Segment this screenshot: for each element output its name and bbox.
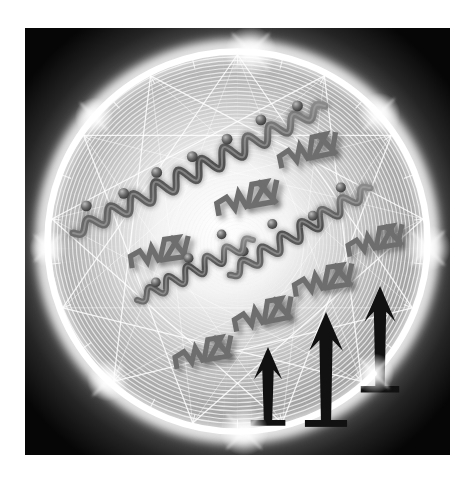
bead: [151, 277, 161, 287]
sparkle-top-left-core: [92, 114, 97, 119]
bead: [256, 114, 267, 125]
sparkle-top-core: [248, 49, 253, 54]
sparkle-bottom-left-core: [105, 378, 110, 383]
bead: [118, 188, 129, 199]
artwork-panel: [25, 28, 450, 455]
bead: [184, 253, 194, 263]
sparkle-left-core: [45, 246, 50, 251]
bead: [151, 167, 162, 178]
sparkle-bottom-right-core: [372, 371, 377, 376]
bead: [267, 219, 277, 229]
bead: [292, 100, 303, 111]
sparkle-bottom-core: [242, 429, 247, 434]
arrow-middle-base-bar: [305, 420, 347, 427]
sparkle-top-right-core: [376, 112, 381, 117]
bead: [308, 211, 318, 221]
bead: [81, 200, 92, 211]
bead: [222, 134, 233, 145]
bead: [336, 182, 346, 192]
artwork-stage: [0, 0, 476, 483]
artwork-svg: [25, 28, 450, 455]
sparkle-right-core: [425, 246, 430, 251]
bead: [187, 151, 198, 162]
bead: [217, 230, 227, 240]
